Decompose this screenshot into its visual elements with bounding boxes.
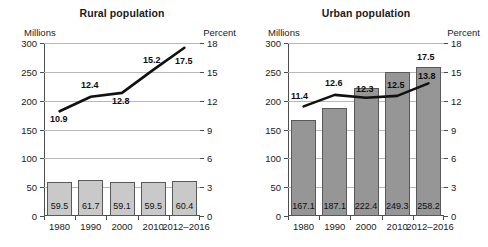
ytick-200-rural xyxy=(40,101,44,102)
xlabel-urban-2010: 2010 xyxy=(387,222,408,232)
xlabel-urban-1980: 1980 xyxy=(293,222,314,232)
bar-value-urban-2010: 249.3 xyxy=(386,202,409,211)
ylabel-0-rural: 0 xyxy=(32,212,37,222)
chart-panel-rural: Rural population Millions Percent 300 25… xyxy=(0,0,244,247)
ytick-200-urban xyxy=(284,101,288,102)
xlabel-rural-2000: 2000 xyxy=(111,222,132,232)
xtick-urban-2 xyxy=(350,216,351,220)
ylabel-250-urban: 250 xyxy=(265,68,281,78)
bar-value-rural-1990: 61.7 xyxy=(79,202,102,211)
ylabel-right-15-urban: 15 xyxy=(451,68,462,78)
gridline-300-rural xyxy=(44,43,200,44)
xtick-urban-0 xyxy=(288,216,289,220)
chart-panel-urban: Urban population Millions Percent 300 25… xyxy=(244,0,488,247)
bar-rural-2000: 59.1 xyxy=(110,182,135,216)
line-label-rural-2012-2016: 17.5 xyxy=(175,57,193,66)
bar-value-rural-2012-2016: 60.4 xyxy=(173,202,196,211)
ylabel-150-rural: 150 xyxy=(21,126,37,136)
ylabel-50-urban: 50 xyxy=(270,183,281,193)
xlabel-rural-2010: 2010 xyxy=(143,222,164,232)
ylabel-right-18-rural: 18 xyxy=(207,39,218,49)
ytick-right-12-rural xyxy=(200,101,204,102)
ytick-right-9-urban xyxy=(444,130,448,131)
xlabel-urban-2000: 2000 xyxy=(355,222,376,232)
ytick-100-rural xyxy=(40,158,44,159)
ylabel-right-9-urban: 9 xyxy=(451,126,456,136)
ylabel-200-urban: 200 xyxy=(265,97,281,107)
ylabel-100-urban: 100 xyxy=(265,154,281,164)
plot-area-urban: 300 250 200 150 100 50 0 18 15 12 9 6 3 … xyxy=(288,43,444,216)
line-label-urban-2010: 12.5 xyxy=(387,81,405,90)
ytick-right-12-urban xyxy=(444,101,448,102)
ylabel-right-6-rural: 6 xyxy=(207,154,212,164)
ytick-right-6-urban xyxy=(444,158,448,159)
ytick-right-3-urban xyxy=(444,187,448,188)
ytick-300-rural xyxy=(40,43,44,44)
ytick-300-urban xyxy=(284,43,288,44)
ytick-right-15-rural xyxy=(200,72,204,73)
ytick-150-rural xyxy=(40,130,44,131)
gridline-150-rural xyxy=(44,130,200,131)
bar-value-rural-2000: 59.1 xyxy=(111,202,134,211)
ytick-50-rural xyxy=(40,187,44,188)
ytick-right-0-rural xyxy=(200,216,204,217)
xtick-rural-4 xyxy=(169,216,170,220)
chart-title-urban: Urban population xyxy=(244,7,488,19)
line-label-rural-1980: 10.9 xyxy=(50,115,68,124)
ytick-right-18-urban xyxy=(444,43,448,44)
bar-rural-1980: 59.5 xyxy=(47,182,72,216)
line-label-rural-2000: 12.8 xyxy=(112,97,130,106)
ylabel-200-rural: 200 xyxy=(21,97,37,107)
y-axis-unit-right-urban: Percent xyxy=(447,27,480,38)
ytick-150-urban xyxy=(284,130,288,131)
ylabel-300-rural: 300 xyxy=(21,39,37,49)
bar-urban-2000: 222.4 xyxy=(354,88,379,216)
y-axis-unit-right-rural: Percent xyxy=(203,27,236,38)
line-label-urban-1990: 12.6 xyxy=(325,79,343,88)
xlabel-rural-2012-2016: 2012–2016 xyxy=(162,222,210,232)
bar-urban-2012-2016: 258.2 xyxy=(416,67,441,216)
bar-rural-2012-2016: 60.4 xyxy=(172,181,197,216)
xtick-rural-1 xyxy=(75,216,76,220)
ytick-right-6-rural xyxy=(200,158,204,159)
ytick-right-18-rural xyxy=(200,43,204,44)
ylabel-150-urban: 150 xyxy=(265,126,281,136)
bar-value-urban-2012-2016: 258.2 xyxy=(417,202,440,211)
ytick-250-urban xyxy=(284,72,288,73)
xlabel-urban-2012-2016: 2012–2016 xyxy=(406,222,454,232)
bar-value-urban-2000: 222.4 xyxy=(355,202,378,211)
ylabel-right-12-rural: 12 xyxy=(207,97,218,107)
dual-chart-figure: Rural population Millions Percent 300 25… xyxy=(0,0,488,247)
line-label-urban-2000: 12.3 xyxy=(356,85,374,94)
line-label-urban-1980: 11.4 xyxy=(291,92,308,101)
ytick-100-urban xyxy=(284,158,288,159)
xlabel-urban-1990: 1990 xyxy=(324,222,345,232)
line-label-urban-2012-2016: 13.8 xyxy=(418,72,436,81)
bar-urban-2010: 249.3 xyxy=(385,72,410,216)
xtick-rural-3 xyxy=(138,216,139,220)
xtick-urban-3 xyxy=(382,216,383,220)
ylabel-right-9-rural: 9 xyxy=(207,126,212,136)
bar-value-rural-1980: 59.5 xyxy=(48,202,71,211)
ylabel-right-6-urban: 6 xyxy=(451,154,456,164)
gridline-300-urban xyxy=(288,43,444,44)
ylabel-0-urban: 0 xyxy=(276,212,281,222)
bar-value-rural-2010: 59.5 xyxy=(142,202,165,211)
bar-urban-1980: 167.1 xyxy=(291,120,316,216)
xtick-rural-2 xyxy=(106,216,107,220)
xlabel-rural-1980: 1980 xyxy=(49,222,70,232)
xtick-rural-0 xyxy=(44,216,45,220)
ytick-right-0-urban xyxy=(444,216,448,217)
annotation-urban-17-5: 17.5 xyxy=(417,53,435,62)
ylabel-right-3-rural: 3 xyxy=(207,183,212,193)
ylabel-50-rural: 50 xyxy=(26,183,37,193)
ylabel-250-rural: 250 xyxy=(21,68,37,78)
bar-rural-1990: 61.7 xyxy=(78,180,103,216)
bar-urban-1990: 187.1 xyxy=(322,108,347,216)
ytick-250-rural xyxy=(40,72,44,73)
ylabel-right-3-urban: 3 xyxy=(451,183,456,193)
line-label-rural-1990: 12.4 xyxy=(81,81,99,90)
ytick-right-3-rural xyxy=(200,187,204,188)
ylabel-right-18-urban: 18 xyxy=(451,39,462,49)
ylabel-right-15-rural: 15 xyxy=(207,68,218,78)
